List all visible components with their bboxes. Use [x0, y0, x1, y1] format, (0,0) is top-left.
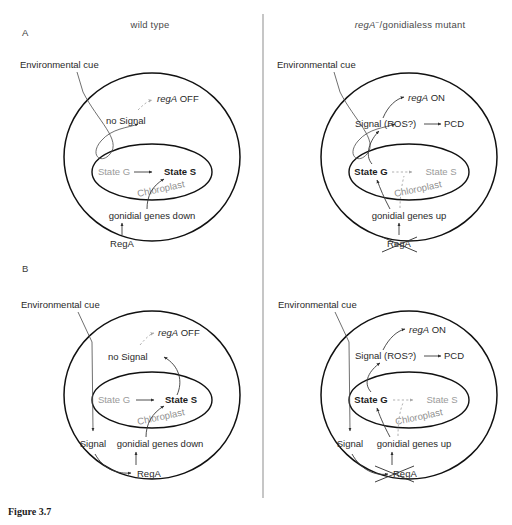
rega-state-suffix: ON [428, 92, 445, 103]
state-g-label: State G [354, 166, 387, 177]
rega-state-suffix: OFF [178, 327, 200, 338]
panel-label-a: A [22, 27, 29, 38]
diagram-canvas: wild type regA−/gonidialess mutant A B E… [0, 0, 512, 525]
rega-gene-text: regA [158, 327, 178, 338]
column-title-right: regA−/gonidialess mutant [355, 19, 466, 30]
rega-state-label: regA OFF [157, 93, 199, 104]
rega-state-label: regA ON [409, 324, 446, 335]
gonidial-genes-label: gonidial genes down [117, 438, 204, 449]
rega-state-label: regA OFF [158, 327, 200, 338]
signal-inner-label: no Signal [108, 351, 148, 362]
gonidial-genes-label: gonidial genes up [377, 438, 451, 449]
rega-state-suffix: ON [429, 324, 446, 335]
pcd-label: PCD [444, 350, 464, 361]
figure-3-7: wild type regA−/gonidialess mutant A B E… [0, 0, 512, 525]
column-title-left: wild type [130, 19, 170, 30]
env-cue-label: Environmental cue [278, 299, 357, 310]
signal-outer-label: Signal [337, 438, 363, 449]
panel-label-b: B [22, 263, 28, 274]
env-cue-label: Environmental cue [20, 59, 99, 70]
state-g-label: State G [98, 166, 130, 177]
rega-state-suffix: OFF [177, 93, 199, 104]
signal-label: Signal (ROS?) [355, 118, 416, 129]
env-cue-label: Environmental cue [21, 299, 100, 310]
state-g-label: State G [354, 394, 387, 405]
gonidial-genes-label: gonidial genes up [372, 210, 446, 221]
column-title-right-gene: regA [355, 19, 376, 30]
state-s-label: State S [164, 166, 196, 177]
state-g-label: State G [98, 394, 130, 405]
state-s-label: State S [165, 394, 197, 405]
state-s-label: State S [425, 166, 456, 177]
signal-inner-label: Signal (ROS?) [355, 350, 416, 361]
signal-outer-label: Signal [80, 438, 106, 449]
gonidial-genes-label: gonidial genes down [109, 210, 196, 221]
state-s-label: State S [426, 394, 457, 405]
rega-gene-text: regA [157, 93, 177, 104]
rega-gene-text: regA [408, 92, 428, 103]
env-cue-label: Environmental cue [277, 59, 356, 70]
rega-gene-text: regA [409, 324, 429, 335]
rega-protein-label: RegA [387, 238, 411, 249]
rega-protein-label: RegA [137, 468, 161, 479]
column-title-right-rest: /gonidialess mutant [380, 19, 466, 30]
signal-label: no Signal [106, 115, 146, 126]
rega-protein-label: RegA [110, 238, 134, 249]
figure-caption: Figure 3.7 [8, 506, 51, 517]
pcd-label: PCD [444, 118, 464, 129]
rega-state-label: regA ON [408, 92, 445, 103]
